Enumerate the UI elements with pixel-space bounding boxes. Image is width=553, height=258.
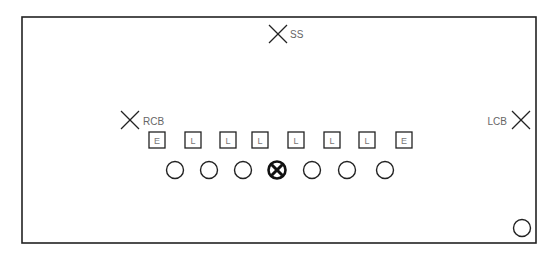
defender-lcb: LCB bbox=[488, 111, 530, 129]
lineman-label: L bbox=[293, 136, 298, 146]
defensive-backs: SSRCBLCB bbox=[121, 25, 530, 129]
lineman-square-e: E bbox=[149, 132, 165, 148]
lineman-label: E bbox=[154, 136, 160, 146]
offensive-player-circle-icon bbox=[167, 162, 184, 179]
lineman-label: E bbox=[401, 136, 407, 146]
lineman-square-l: L bbox=[288, 132, 304, 148]
x-mark-icon bbox=[121, 111, 139, 129]
lineman-label: L bbox=[257, 136, 262, 146]
x-mark-icon bbox=[512, 111, 530, 129]
x-mark-icon bbox=[269, 25, 287, 43]
defender-rcb: RCB bbox=[121, 111, 164, 129]
offensive-player-circle-icon bbox=[304, 162, 321, 179]
lineman-square-l: L bbox=[185, 132, 201, 148]
defender-label: SS bbox=[290, 29, 304, 40]
lineman-label: L bbox=[225, 136, 230, 146]
offensive-player-circle-icon bbox=[377, 162, 394, 179]
lineman-square-l: L bbox=[252, 132, 268, 148]
lineman-square-l: L bbox=[324, 132, 340, 148]
offensive-player-circle-icon bbox=[339, 162, 356, 179]
offensive-player-circle-icon bbox=[235, 162, 252, 179]
defensive-front-line: ELLLLLLE bbox=[149, 132, 412, 148]
offensive-line bbox=[167, 162, 394, 179]
extra-player bbox=[514, 220, 531, 237]
field-frame bbox=[22, 17, 536, 243]
lineman-label: L bbox=[190, 136, 195, 146]
lineman-square-l: L bbox=[220, 132, 236, 148]
defender-label: LCB bbox=[488, 116, 508, 127]
defender-label: RCB bbox=[143, 116, 164, 127]
extra-player-circle-icon bbox=[514, 220, 531, 237]
lineman-label: L bbox=[329, 136, 334, 146]
defender-ss: SS bbox=[269, 25, 304, 43]
lineman-square-e: E bbox=[396, 132, 412, 148]
center-x-circle-icon bbox=[269, 162, 286, 179]
offensive-player-circle-icon bbox=[201, 162, 218, 179]
lineman-square-l: L bbox=[359, 132, 375, 148]
lineman-label: L bbox=[364, 136, 369, 146]
football-formation-diagram: SSRCBLCB ELLLLLLE bbox=[0, 0, 553, 258]
